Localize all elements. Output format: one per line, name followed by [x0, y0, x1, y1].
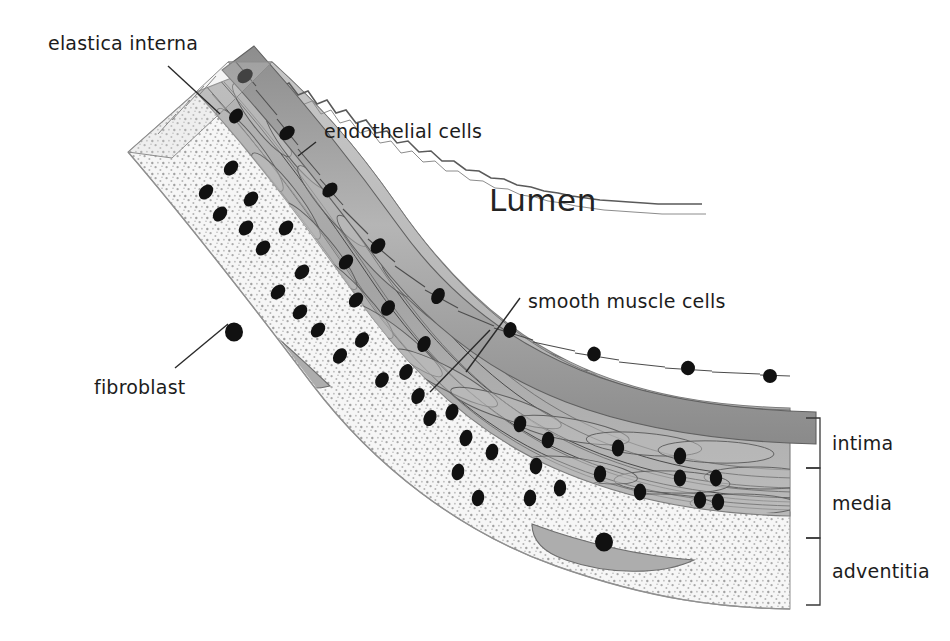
bracket-media: [806, 468, 820, 538]
label-adventitia: adventitia: [832, 560, 930, 582]
fibroblast-upper-nucleus: [225, 322, 243, 341]
label-endothelial-cells: endothelial cells: [324, 120, 482, 142]
bracket-adventitia: [806, 538, 820, 605]
label-intima: intima: [832, 432, 893, 454]
fibroblast-lower-nucleus: [595, 532, 613, 551]
label-fibroblast: fibroblast: [94, 376, 185, 398]
artery-wall-diagram: elastica interna endothelial cells Lumen…: [0, 0, 950, 641]
label-lumen: Lumen: [489, 182, 597, 218]
layer-brackets: intima media adventitia: [806, 418, 930, 605]
label-media: media: [832, 492, 892, 514]
label-smooth-muscle-cells: smooth muscle cells: [528, 290, 725, 312]
label-elastica-interna: elastica interna: [48, 32, 198, 54]
leader-fibroblast: [175, 324, 228, 368]
